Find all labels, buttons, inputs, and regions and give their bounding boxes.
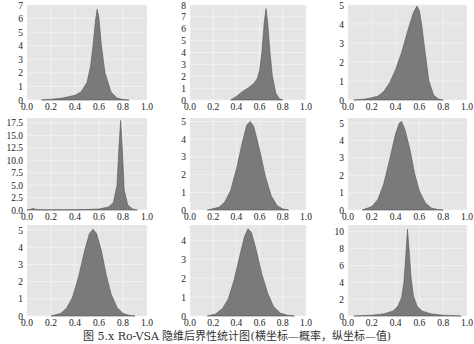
- x-tick-label: 1.0: [141, 212, 153, 222]
- subplot-1: 0.00.20.40.60.81.001234567: [18, 1, 153, 113]
- y-tick-label: 2: [181, 72, 186, 82]
- y-tick-label: 2: [18, 68, 23, 78]
- y-tick-label: 6: [18, 14, 23, 24]
- x-tick-label: 0.6: [413, 212, 425, 222]
- x-tick-label: 0.6: [93, 212, 105, 222]
- x-tick-label: 0.4: [390, 212, 402, 222]
- y-tick-label: 12.5: [6, 143, 23, 153]
- subplot-9: 0.00.20.40.60.81.00246810: [335, 225, 474, 328]
- x-tick-label: 0.2: [207, 102, 219, 112]
- y-tick-label: 4: [339, 278, 344, 288]
- x-tick-label: 1.0: [300, 212, 312, 222]
- y-tick-label: 0: [181, 206, 186, 216]
- x-tick-label: 0.8: [277, 102, 289, 112]
- subplot-8: 0.00.20.40.60.81.001234: [181, 225, 312, 328]
- y-tick-label: 4: [339, 20, 344, 30]
- x-tick-label: 0.4: [69, 318, 81, 328]
- y-tick-label: 0: [339, 96, 344, 106]
- y-tick-label: 3: [181, 152, 186, 162]
- x-tick-label: 0.8: [437, 212, 449, 222]
- y-tick-label: 3: [339, 153, 344, 163]
- x-tick-label: 0.6: [254, 212, 266, 222]
- x-tick-label: 0.4: [69, 212, 81, 222]
- y-tick-label: 0: [339, 206, 344, 216]
- y-tick-label: 5: [339, 119, 344, 129]
- x-tick-label: 1.0: [300, 318, 312, 328]
- x-tick-label: 0.8: [437, 102, 449, 112]
- y-tick-label: 6: [181, 24, 186, 34]
- x-tick-label: 0.8: [277, 212, 289, 222]
- subplot-5: 0.00.20.40.60.81.0012345: [181, 117, 312, 222]
- x-tick-label: 0.4: [230, 318, 242, 328]
- plot-area: [27, 118, 147, 210]
- y-tick-label: 1: [18, 82, 23, 92]
- y-tick-label: 3: [181, 255, 186, 265]
- x-tick-label: 0.6: [254, 318, 266, 328]
- y-tick-label: 8: [181, 1, 186, 11]
- x-tick-label: 0.4: [69, 102, 81, 112]
- y-tick-label: 0: [18, 312, 23, 322]
- y-tick-label: 2.5: [11, 193, 23, 203]
- y-tick-label: 7.5: [11, 168, 23, 178]
- y-tick-label: 2: [339, 171, 344, 181]
- y-tick-label: 1: [339, 188, 344, 198]
- x-tick-label: 0.2: [207, 318, 219, 328]
- x-tick-label: 1.0: [461, 212, 473, 222]
- x-tick-label: 0.6: [93, 102, 105, 112]
- x-tick-label: 0.8: [117, 102, 129, 112]
- y-tick-label: 2: [339, 58, 344, 68]
- y-tick-label: 3: [18, 55, 23, 65]
- y-tick-label: 1: [181, 188, 186, 198]
- x-tick-label: 0.4: [230, 102, 242, 112]
- x-tick-label: 0.8: [117, 212, 129, 222]
- y-tick-label: 0: [181, 96, 186, 106]
- x-tick-label: 0.4: [390, 318, 402, 328]
- y-tick-label: 4: [339, 136, 344, 146]
- y-tick-label: 2: [181, 274, 186, 284]
- x-tick-label: 1.0: [461, 102, 473, 112]
- x-tick-label: 0.2: [45, 318, 57, 328]
- y-tick-label: 4: [18, 41, 23, 51]
- y-tick-label: 6: [339, 261, 344, 271]
- x-tick-label: 0.6: [254, 102, 266, 112]
- x-tick-label: 0.8: [437, 318, 449, 328]
- y-tick-label: 15.0: [6, 131, 23, 141]
- x-tick-label: 0.8: [117, 318, 129, 328]
- y-tick-label: 4: [181, 48, 186, 58]
- y-tick-label: 0.0: [11, 206, 23, 216]
- y-tick-label: 7: [181, 12, 186, 22]
- x-tick-label: 1.0: [461, 318, 473, 328]
- y-tick-label: 5: [18, 28, 23, 38]
- y-tick-label: 1: [18, 294, 23, 304]
- subplot-4: 0.00.20.40.60.81.00.02.55.07.510.012.515…: [6, 118, 153, 222]
- y-tick-label: 5: [181, 36, 186, 46]
- y-tick-label: 4: [181, 236, 186, 246]
- y-tick-label: 2: [181, 170, 186, 180]
- y-tick-label: 5: [339, 1, 344, 11]
- y-tick-label: 3: [181, 60, 186, 70]
- y-tick-label: 7: [18, 1, 23, 11]
- x-tick-label: 0.2: [45, 102, 57, 112]
- y-tick-label: 3: [18, 260, 23, 270]
- x-tick-label: 0.4: [390, 102, 402, 112]
- y-tick-label: 17.5: [6, 118, 23, 128]
- y-tick-label: 4: [18, 243, 23, 253]
- y-tick-label: 8: [339, 244, 344, 254]
- y-tick-label: 0: [339, 312, 344, 322]
- y-tick-label: 3: [339, 39, 344, 49]
- y-tick-label: 0: [18, 96, 23, 106]
- x-tick-label: 0.8: [277, 318, 289, 328]
- x-tick-label: 0.4: [230, 212, 242, 222]
- y-tick-label: 4: [181, 135, 186, 145]
- subplot-2: 0.00.20.40.60.81.0012345678: [181, 1, 312, 113]
- x-tick-label: 0.2: [366, 212, 378, 222]
- y-tick-label: 5.0: [11, 181, 23, 191]
- figure-caption: 图 5.x Ro-VSA 隐维后界性统计图(横坐标—概率，纵坐标—值): [0, 330, 474, 344]
- y-tick-label: 10.0: [6, 156, 23, 166]
- y-tick-label: 2: [339, 295, 344, 305]
- y-tick-label: 1: [339, 77, 344, 87]
- y-tick-label: 1: [181, 293, 186, 303]
- y-tick-label: 0: [181, 312, 186, 322]
- x-tick-label: 0.2: [366, 102, 378, 112]
